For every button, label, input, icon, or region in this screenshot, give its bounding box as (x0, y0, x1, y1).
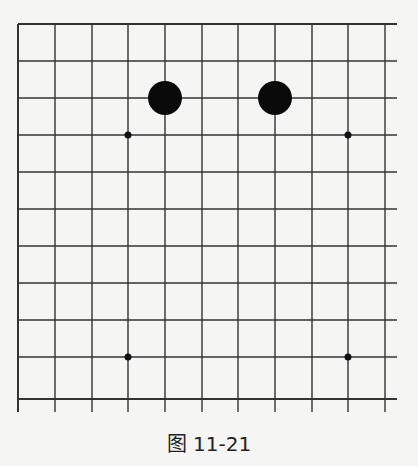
star-point (125, 132, 132, 139)
black-stone (148, 81, 182, 115)
star-point (125, 354, 132, 361)
go-board (0, 0, 418, 420)
star-point (345, 132, 352, 139)
black-stone (258, 81, 292, 115)
figure-caption: 图 11-21 (0, 428, 418, 457)
star-point (345, 354, 352, 361)
figure: 图 11-21 (0, 0, 418, 466)
